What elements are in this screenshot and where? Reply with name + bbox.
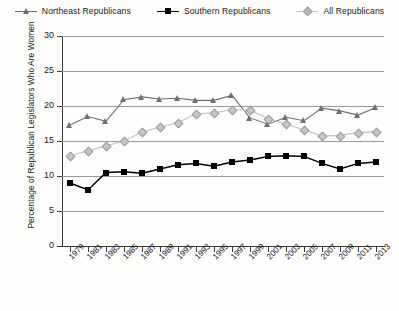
series-line-2	[70, 110, 376, 156]
line-chart: Northeast Republicans Southern Republica…	[0, 0, 399, 311]
legend-item-southern-republicans: Southern Republicans	[157, 6, 271, 16]
data-point	[336, 108, 342, 114]
data-point	[319, 160, 325, 166]
data-point	[372, 104, 378, 110]
data-point	[228, 92, 234, 98]
data-point	[247, 157, 253, 163]
data-point	[192, 97, 198, 103]
data-point	[229, 159, 235, 165]
series-line-0	[70, 96, 376, 125]
data-point	[67, 180, 73, 186]
data-point	[373, 159, 379, 165]
data-point	[193, 160, 199, 166]
data-point	[157, 166, 163, 172]
plot-area	[62, 36, 384, 246]
y-axis-title: Percentage of Republican Legislators Who…	[26, 15, 36, 235]
y-axis-tick-label: 25	[16, 65, 54, 75]
y-axis-tick-label: 5	[16, 205, 54, 215]
data-point	[211, 163, 217, 169]
y-axis-tick-label: 10	[16, 170, 54, 180]
data-point	[66, 122, 72, 128]
data-point	[139, 170, 145, 176]
data-point	[318, 105, 324, 111]
y-axis-tick-label: 15	[16, 135, 54, 145]
legend-label: Southern Republicans	[184, 6, 271, 16]
y-axis-tick-label: 30	[16, 30, 54, 40]
data-point	[85, 187, 91, 193]
y-axis-tick-label: 0	[16, 240, 54, 250]
legend-label: All Republicans	[323, 6, 384, 16]
data-point	[283, 153, 289, 159]
data-point	[121, 169, 127, 175]
square-marker-icon	[157, 7, 179, 16]
data-point	[210, 97, 216, 103]
data-point	[103, 170, 109, 176]
series-lines	[62, 36, 384, 246]
chart-legend: Northeast Republicans Southern Republica…	[0, 3, 399, 19]
data-point	[300, 117, 306, 123]
data-point	[337, 166, 343, 172]
y-axis-tick-mark	[57, 246, 62, 247]
data-point	[301, 153, 307, 159]
data-point	[265, 153, 271, 159]
data-point	[120, 96, 126, 102]
diamond-marker-icon	[296, 7, 318, 16]
data-point	[175, 162, 181, 168]
data-point	[156, 96, 162, 102]
data-point	[102, 118, 108, 124]
legend-label: Northeast Republicans	[42, 6, 131, 16]
data-point	[354, 112, 360, 118]
data-point	[355, 160, 361, 166]
y-axis-tick-label: 20	[16, 100, 54, 110]
series-line-1	[70, 156, 376, 190]
data-point	[174, 95, 180, 101]
data-point	[138, 94, 144, 100]
legend-item-all-republicans: All Republicans	[296, 6, 384, 16]
data-point	[84, 113, 90, 119]
